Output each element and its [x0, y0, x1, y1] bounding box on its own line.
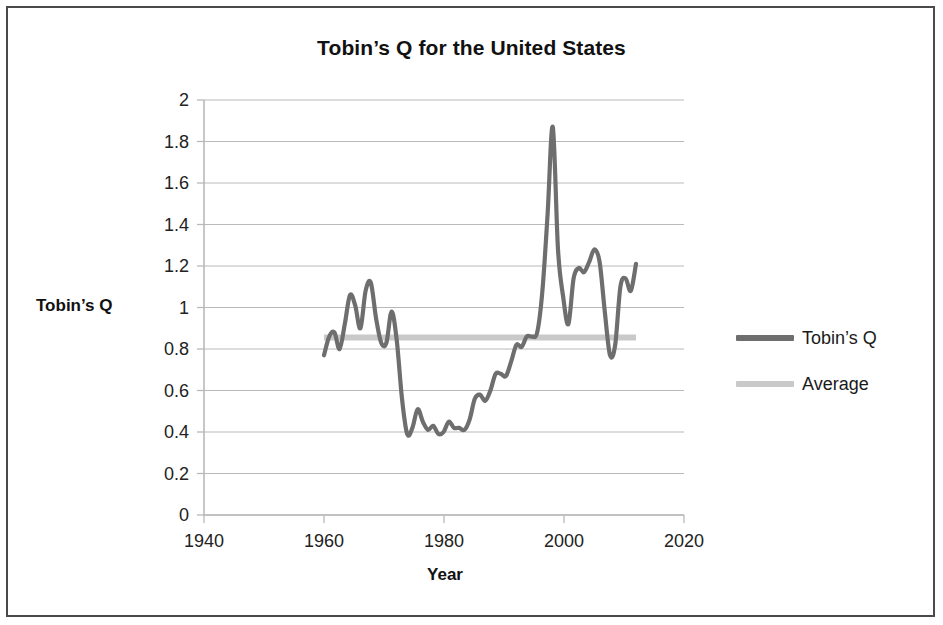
y-tick-label: 1.6 — [131, 174, 189, 192]
y-tick-label: 0.6 — [131, 382, 189, 400]
y-tick-label: 1.4 — [131, 216, 189, 234]
y-tick-label: 0.8 — [131, 340, 189, 358]
x-tick-label: 2000 — [519, 532, 609, 550]
x-tick-label: 1960 — [279, 532, 369, 550]
y-tick-label: 1.2 — [131, 257, 189, 275]
x-tick-label: 1980 — [399, 532, 489, 550]
y-tick-label: 0.4 — [131, 423, 189, 441]
legend-item[interactable]: Average — [736, 361, 936, 407]
y-tick-label: 0 — [131, 506, 189, 524]
y-tick-label: 1 — [131, 299, 189, 317]
y-tick-label: 2 — [131, 91, 189, 109]
chart-page: Tobin’s Q for the United States Tobin’s … — [0, 0, 943, 625]
legend-color-swatch — [736, 335, 794, 341]
x-tick-label: 2020 — [639, 532, 729, 550]
y-tick-label: 1.8 — [131, 133, 189, 151]
legend-item-label: Tobin’s Q — [802, 328, 877, 349]
y-tick-label: 0.2 — [131, 465, 189, 483]
legend-item[interactable]: Tobin’s Q — [736, 315, 936, 361]
y-axis-tick-marks — [197, 100, 204, 515]
tobins-q-series-line — [324, 127, 636, 436]
x-axis-tick-marks — [204, 515, 684, 523]
legend-item-label: Average — [802, 374, 869, 395]
gridlines — [204, 100, 684, 515]
legend-color-swatch — [736, 381, 794, 387]
x-tick-label: 1940 — [159, 532, 249, 550]
chart-legend: Tobin’s QAverage — [736, 315, 936, 407]
